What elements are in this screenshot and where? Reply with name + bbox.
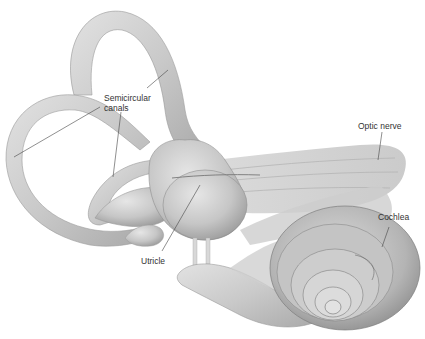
cochlea-spiral (270, 206, 420, 330)
label-semicircular-canals-line2: canals (104, 103, 129, 113)
inner-ear-diagram: Semicircular canals Optic nerve Cochlea … (0, 0, 425, 339)
label-semicircular-canals-line1: Semicircular (104, 93, 151, 103)
lower-ampulla (125, 225, 164, 246)
inner-ear-illustration (0, 0, 425, 339)
label-utricle: Utricle (141, 256, 165, 266)
label-optic-nerve: Optic nerve (358, 121, 401, 131)
utricle-sac (163, 170, 247, 240)
label-cochlea: Cochlea (378, 212, 409, 222)
